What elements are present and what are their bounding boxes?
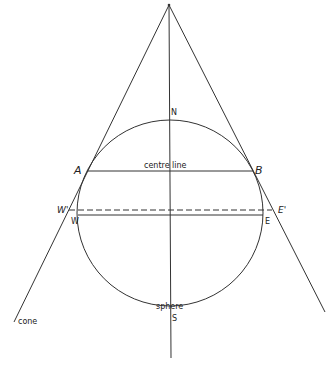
label-point-b: B (255, 164, 263, 177)
label-west: W (71, 217, 79, 226)
label-point-a: A (73, 164, 82, 177)
cone-sphere-diagram: N S A B W' W E' E centre line sphere con… (0, 0, 335, 367)
label-cone: cone (18, 317, 37, 326)
label-centre-line: centre line (144, 161, 187, 170)
label-east-prime: E' (278, 205, 286, 215)
label-south: S (172, 314, 177, 323)
label-north: N (171, 108, 177, 117)
label-east: E (265, 217, 270, 226)
label-sphere: sphere (156, 302, 183, 311)
label-west-prime: W' (57, 205, 68, 215)
